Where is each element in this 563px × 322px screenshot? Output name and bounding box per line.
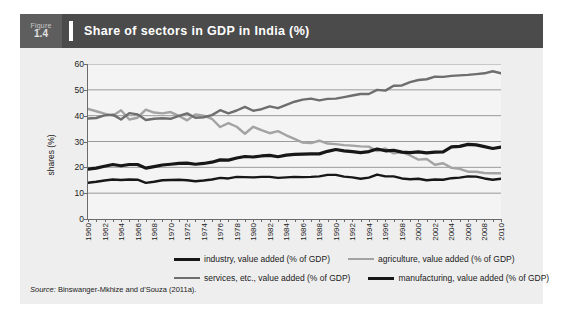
x-tick-mark — [261, 219, 262, 222]
x-tick-mark — [311, 219, 312, 222]
legend-entry[interactable]: services, etc., value added (% of GDP) — [174, 273, 350, 283]
x-tick-mark — [435, 219, 436, 222]
legend-swatch — [174, 277, 200, 279]
x-tick-label: 2006 — [463, 223, 472, 241]
x-tick-mark — [443, 219, 444, 222]
x-tick-mark — [418, 219, 419, 222]
x-tick-label: 1970 — [166, 223, 175, 241]
x-tick-mark — [476, 219, 477, 222]
legend-swatch — [348, 258, 374, 260]
x-tick-mark — [451, 219, 452, 222]
legend-row: services, etc., value added (% of GDP)ma… — [56, 273, 503, 283]
chart-lines — [88, 64, 501, 219]
x-tick-mark — [501, 219, 502, 222]
x-tick-mark — [295, 219, 296, 222]
legend-entry[interactable]: manufacturing, value added (% of GDP) — [368, 273, 549, 283]
x-tick-mark — [303, 219, 304, 222]
source-label: Source: — [30, 285, 56, 294]
x-tick-mark — [253, 219, 254, 222]
legend-entry[interactable]: industry, value added (% of GDP) — [174, 254, 330, 264]
x-tick-mark — [402, 219, 403, 222]
x-tick-mark — [361, 219, 362, 222]
x-tick-mark — [245, 219, 246, 222]
figure-header: Figure 1.4 Share of sectors in GDP in In… — [20, 14, 543, 48]
x-tick-mark — [179, 219, 180, 222]
x-tick-mark — [212, 219, 213, 222]
x-tick-label: 1990 — [331, 223, 340, 241]
x-tick-label: 1992 — [348, 223, 357, 241]
y-tick-label: 60 — [75, 59, 84, 69]
series-line — [88, 71, 501, 120]
x-tick-label: 1974 — [199, 223, 208, 241]
x-tick-mark — [237, 219, 238, 222]
x-tick-label: 1986 — [298, 223, 307, 241]
x-tick-label: 2004 — [447, 223, 456, 241]
x-tick-mark — [204, 219, 205, 222]
legend-label: services, etc., value added (% of GDP) — [204, 273, 350, 283]
x-tick-label: 1964 — [117, 223, 126, 241]
x-tick-label: 1980 — [249, 223, 258, 241]
x-tick-label: 1982 — [265, 223, 274, 241]
y-tick-mark — [84, 167, 88, 168]
series-line — [88, 144, 501, 169]
x-tick-mark — [121, 219, 122, 222]
y-tick-label: 40 — [75, 111, 84, 121]
figure-number-badge: Figure 1.4 — [20, 14, 62, 48]
y-tick-mark — [84, 90, 88, 91]
x-tick-label: 1962 — [100, 223, 109, 241]
figure-title: Share of sectors in GDP in India (%) — [84, 24, 310, 38]
y-tick-mark — [84, 142, 88, 143]
legend-label: agriculture, value added (% of GDP) — [378, 254, 515, 264]
x-tick-mark — [129, 219, 130, 222]
x-tick-label: 1960 — [84, 223, 93, 241]
x-tick-mark — [162, 219, 163, 222]
y-tick-mark — [84, 64, 88, 65]
x-tick-mark — [195, 219, 196, 222]
figure-number: 1.4 — [34, 29, 48, 40]
x-tick-mark — [427, 219, 428, 222]
x-tick-label: 1988 — [315, 223, 324, 241]
x-tick-mark — [154, 219, 155, 222]
y-tick-label: 10 — [75, 188, 84, 198]
y-tick-label: 50 — [75, 85, 84, 95]
legend-entry[interactable]: agriculture, value added (% of GDP) — [348, 254, 515, 264]
series-line — [88, 175, 501, 183]
x-tick-mark — [319, 219, 320, 222]
x-tick-mark — [228, 219, 229, 222]
x-tick-mark — [394, 219, 395, 222]
plot-area: 0102030405060196019621964196619681970197… — [87, 64, 501, 220]
x-tick-mark — [328, 219, 329, 222]
legend-swatch — [368, 277, 394, 280]
source-text: Binswanger-Mkhize and d'Souza (2011a). — [58, 285, 196, 294]
x-tick-mark — [460, 219, 461, 222]
y-tick-mark — [84, 116, 88, 117]
x-tick-mark — [96, 219, 97, 222]
x-tick-mark — [377, 219, 378, 222]
x-tick-mark — [270, 219, 271, 222]
y-tick-label: 20 — [75, 162, 84, 172]
x-tick-mark — [352, 219, 353, 222]
x-tick-mark — [105, 219, 106, 222]
x-tick-label: 2010 — [497, 223, 506, 241]
x-tick-label: 2000 — [414, 223, 423, 241]
plot-wrapper: shares (%) 01020304050601960196219641966… — [56, 64, 503, 246]
x-tick-mark — [278, 219, 279, 222]
chart-body: shares (%) 01020304050601960196219641966… — [20, 48, 543, 304]
header-divider — [69, 21, 73, 41]
x-tick-label: 2008 — [480, 223, 489, 241]
x-tick-label: 1984 — [282, 223, 291, 241]
x-tick-label: 1966 — [133, 223, 142, 241]
x-tick-mark — [146, 219, 147, 222]
x-tick-mark — [88, 219, 89, 222]
y-tick-label: 30 — [75, 137, 84, 147]
x-tick-label: 1968 — [150, 223, 159, 241]
x-tick-label: 1978 — [232, 223, 241, 241]
x-tick-mark — [138, 219, 139, 222]
legend-label: industry, value added (% of GDP) — [204, 254, 330, 264]
legend-label: manufacturing, value added (% of GDP) — [398, 273, 549, 283]
x-tick-mark — [344, 219, 345, 222]
x-tick-mark — [484, 219, 485, 222]
figure-panel: Figure 1.4 Share of sectors in GDP in In… — [20, 14, 543, 304]
x-tick-label: 1998 — [397, 223, 406, 241]
y-axis-title: shares (%) — [46, 134, 56, 175]
